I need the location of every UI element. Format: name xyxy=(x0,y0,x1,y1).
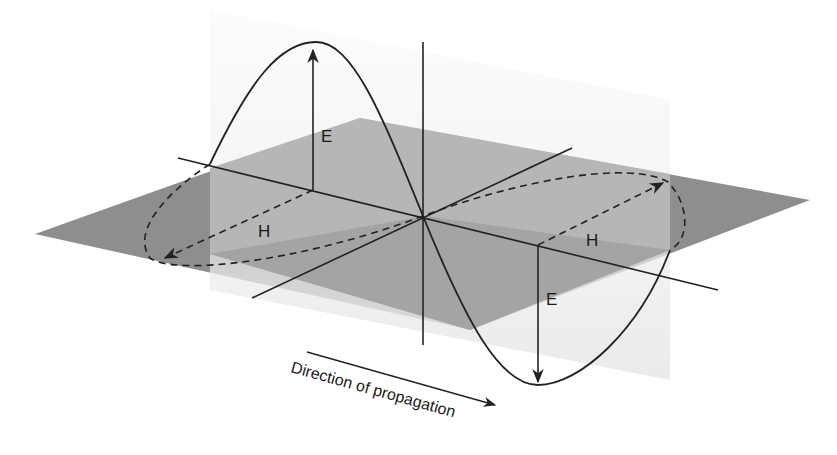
h-label-left: H xyxy=(258,222,270,241)
direction-caption: Direction of propagation xyxy=(289,359,457,421)
e-label-upper: E xyxy=(321,127,332,146)
h-label-right: H xyxy=(586,231,598,250)
em-wave-diagram: E H H E Direction of propagation xyxy=(0,0,837,455)
e-label-lower: E xyxy=(546,290,557,309)
